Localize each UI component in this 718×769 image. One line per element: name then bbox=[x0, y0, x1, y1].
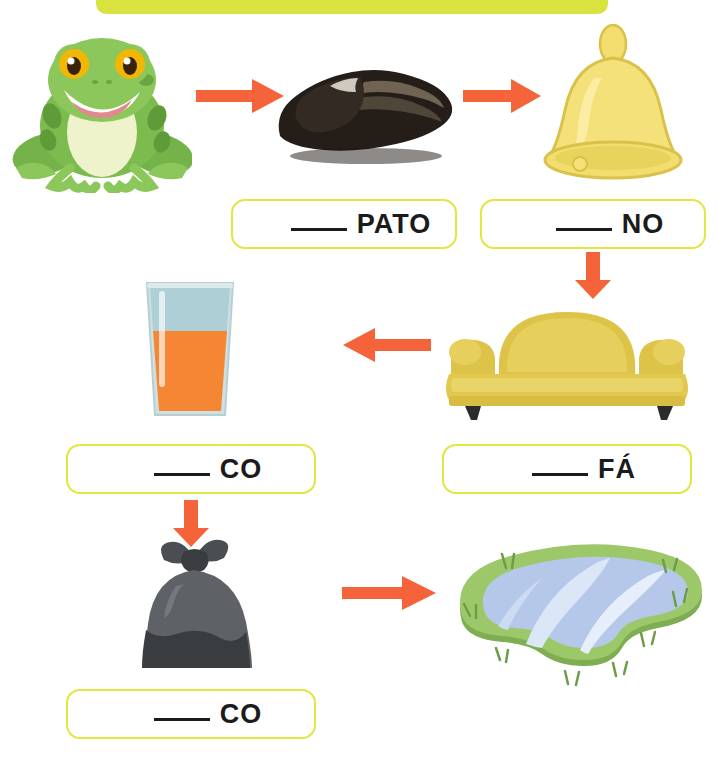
frog-image bbox=[12, 28, 192, 193]
answer-box-fa[interactable]: FÁ bbox=[442, 444, 692, 494]
answer-text-pato: PATO bbox=[257, 178, 432, 271]
answer-blank-pato[interactable] bbox=[291, 228, 347, 231]
trash-bag-image bbox=[128, 538, 268, 674]
answer-box-no[interactable]: NO bbox=[480, 199, 706, 249]
answer-box-co-1[interactable]: CO bbox=[66, 444, 316, 494]
juice-glass-image bbox=[133, 277, 247, 421]
sofa-image bbox=[443, 300, 691, 422]
answer-text-co-2: CO bbox=[120, 668, 263, 761]
answer-blank-co-2[interactable] bbox=[154, 718, 210, 721]
answer-text-fa: FÁ bbox=[498, 423, 636, 516]
answer-blank-co-1[interactable] bbox=[154, 473, 210, 476]
bell-image bbox=[528, 24, 698, 192]
answer-box-pato[interactable]: PATO bbox=[231, 199, 457, 249]
arrow-bag-to-lake bbox=[342, 572, 438, 614]
shoe-image bbox=[268, 52, 458, 172]
title-banner bbox=[96, 0, 608, 14]
lake-image bbox=[440, 538, 710, 698]
answer-box-co-2[interactable]: CO bbox=[66, 689, 316, 739]
arrow-bell-to-sofa bbox=[572, 252, 614, 300]
answer-suffix-no: NO bbox=[622, 209, 665, 239]
answer-blank-fa[interactable] bbox=[532, 473, 588, 476]
answer-suffix-fa: FÁ bbox=[598, 454, 636, 484]
answer-suffix-co-1: CO bbox=[220, 454, 263, 484]
arrow-sofa-to-juice bbox=[341, 325, 431, 365]
answer-suffix-pato: PATO bbox=[357, 209, 432, 239]
answer-blank-no[interactable] bbox=[556, 228, 612, 231]
answer-suffix-co-2: CO bbox=[220, 699, 263, 729]
